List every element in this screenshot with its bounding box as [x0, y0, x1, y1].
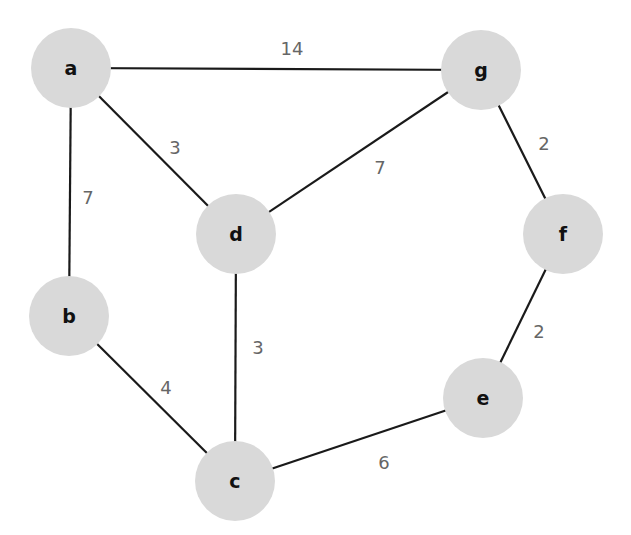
- node-a: a: [31, 28, 111, 108]
- node-b: b: [29, 276, 109, 356]
- edge-weight-f-e: 2: [533, 321, 544, 342]
- edge-g-d: [236, 70, 481, 234]
- nodes-layer: agdfbec: [29, 28, 603, 521]
- edge-weight-g-f: 2: [538, 133, 549, 154]
- edge-weight-a-b: 7: [82, 187, 93, 208]
- node-label: g: [474, 59, 488, 81]
- node-f: f: [523, 194, 603, 274]
- node-label: a: [65, 57, 78, 79]
- node-g: g: [441, 30, 521, 110]
- node-label: e: [477, 387, 490, 409]
- edge-weight-g-d: 7: [374, 157, 385, 178]
- node-e: e: [443, 358, 523, 438]
- edge-weight-a-g: 14: [281, 38, 304, 59]
- node-c: c: [195, 441, 275, 521]
- node-label: c: [229, 470, 240, 492]
- node-label: b: [62, 305, 76, 327]
- edge-weight-a-d: 3: [169, 137, 180, 158]
- graph-diagram: 1437723426 agdfbec: [0, 0, 631, 535]
- node-label: f: [559, 223, 568, 245]
- node-d: d: [196, 194, 276, 274]
- edge-weight-c-e: 6: [378, 452, 389, 473]
- edge-weight-b-c: 4: [160, 377, 171, 398]
- node-label: d: [229, 223, 243, 245]
- edge-a-g: [71, 68, 481, 70]
- edge-weight-d-c: 3: [252, 337, 263, 358]
